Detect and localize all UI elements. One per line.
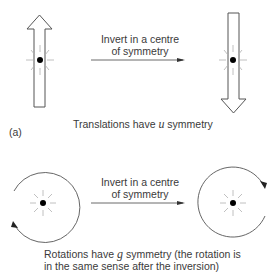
inversion-centre-icon [219,45,247,75]
panel-b-arrow-caption-line1: Invert in a centre [92,176,188,188]
downward-arrow-icon [221,13,246,113]
panel-a-arrow-caption-line2: of symmetry [92,45,188,57]
panel-a-caption: Translations have u symmetry [73,118,213,130]
panel-b-caption-line1: Rotations have g symmetry (the rotation … [44,248,241,260]
panel-a-caption-pre: Translations have [73,118,158,130]
inversion-centre-icon [220,190,246,216]
panel-a-arrow-caption-line1: Invert in a centre [92,33,188,45]
panel-b-caption-post: symmetry (the rotation is [123,248,241,260]
inversion-centre-icon [30,190,56,216]
panel-label-a: (a) [9,126,22,138]
panel-b-caption: Rotations have g symmetry (the rotation … [44,248,241,272]
panel-b-caption-line2: in the same sense after the inversion) [44,260,241,272]
panel-a-caption-post: symmetry [164,118,212,130]
invert-arrow-icon [91,58,185,62]
inversion-centre-icon [26,45,54,75]
panel-b-arrow-caption-line2: of symmetry [92,188,188,200]
invert-arrow-icon [91,201,185,205]
panel-b-arrow-caption: Invert in a centre of symmetry [92,176,188,200]
rotation-circle-left-icon [11,173,80,243]
panel-a-arrow-caption: Invert in a centre of symmetry [92,33,188,57]
panel-b-caption-pre: Rotations have [44,248,117,260]
